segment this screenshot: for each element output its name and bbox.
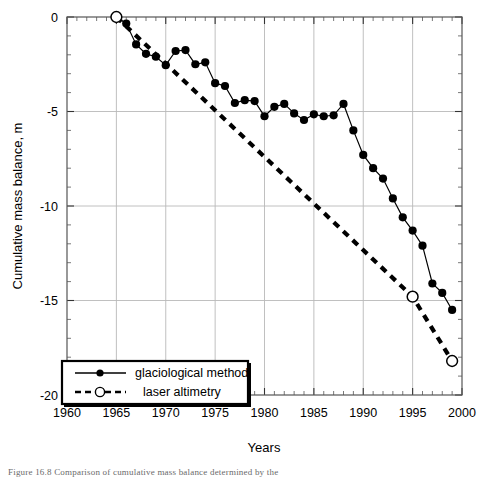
y-tick-label: 0: [51, 11, 58, 25]
x-tick-label: 1990: [349, 406, 377, 420]
data-point-open: [447, 356, 458, 367]
data-point-filled: [260, 112, 268, 120]
data-point-filled: [369, 164, 377, 172]
y-axis-title: Cumulative mass balance, m: [10, 123, 25, 290]
x-tick-label: 1980: [251, 406, 279, 420]
data-point-filled: [399, 213, 407, 221]
figure-caption: Figure 16.8 Comparison of cumulative mas…: [8, 467, 278, 477]
data-point-filled: [270, 103, 278, 111]
x-tick-label: 1975: [201, 406, 229, 420]
data-point-filled: [142, 50, 150, 58]
data-point-filled: [172, 47, 180, 55]
y-tick-label: -10: [40, 200, 58, 214]
x-tick-label: 1965: [102, 406, 130, 420]
data-point-filled: [349, 126, 357, 134]
data-point-open: [111, 12, 122, 23]
x-tick-label: 2000: [448, 406, 476, 420]
y-tick-label: -5: [47, 105, 58, 119]
data-point-filled: [290, 109, 298, 117]
data-point-filled: [201, 58, 209, 66]
data-point-filled: [359, 151, 367, 159]
data-point-filled: [438, 289, 446, 297]
data-point-open: [407, 291, 418, 302]
legend-marker-filled-circle: [96, 369, 103, 376]
cumulative-mass-balance-chart: 196019651970197519801985199019952000 0-5…: [0, 0, 482, 466]
data-point-filled: [448, 306, 456, 314]
y-tick-label: -20: [40, 389, 58, 403]
figure-container: 196019651970197519801985199019952000 0-5…: [0, 0, 482, 480]
legend-label-glaciological-method: glaciological method: [135, 366, 248, 380]
data-point-filled: [280, 100, 288, 108]
data-point-filled: [241, 96, 249, 104]
data-point-filled: [221, 82, 229, 90]
y-axis-tick-labels: 0-5-10-15-20: [40, 11, 58, 403]
x-axis-tick-labels: 196019651970197519801985199019952000: [53, 406, 476, 420]
data-point-filled: [330, 111, 338, 119]
data-point-filled: [251, 97, 259, 105]
data-point-filled: [231, 99, 239, 107]
x-tick-label: 1995: [399, 406, 427, 420]
data-point-filled: [211, 79, 219, 87]
y-tick-label: -15: [40, 294, 58, 308]
data-point-filled: [310, 110, 318, 118]
data-point-filled: [181, 46, 189, 54]
data-point-filled: [428, 279, 436, 287]
data-point-filled: [300, 116, 308, 124]
x-tick-label: 1985: [300, 406, 328, 420]
x-axis-title: Years: [248, 440, 281, 455]
data-point-filled: [389, 194, 397, 202]
legend-shadow-right: [248, 363, 251, 407]
x-tick-label: 1970: [152, 406, 180, 420]
chart-legend: glaciological method laser altimetry: [62, 361, 251, 407]
data-point-filled: [409, 226, 417, 234]
legend-label-laser-altimetry: laser altimetry: [143, 385, 222, 399]
data-point-filled: [379, 174, 387, 182]
data-point-filled: [132, 40, 140, 48]
legend-marker-open-circle: [95, 387, 104, 396]
data-point-filled: [320, 112, 328, 120]
x-tick-label: 1960: [53, 406, 81, 420]
data-point-filled: [418, 242, 426, 250]
data-point-filled: [339, 100, 347, 108]
data-point-filled: [191, 60, 199, 68]
legend-shadow-bottom: [64, 404, 250, 407]
